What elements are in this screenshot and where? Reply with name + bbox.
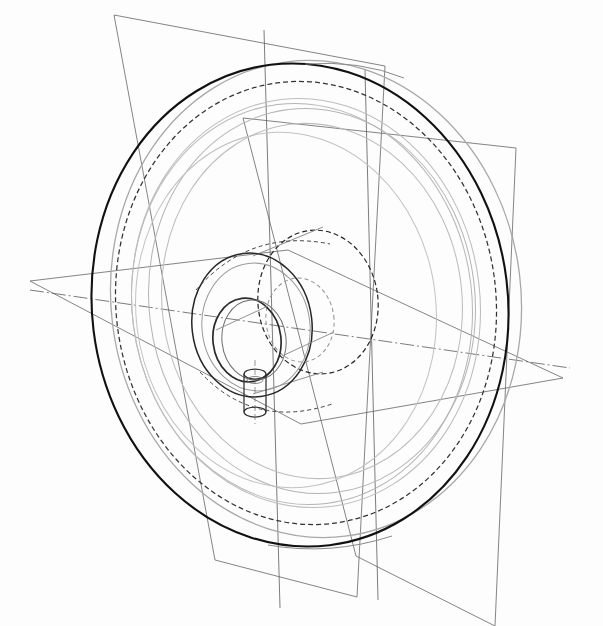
cad-viewport: Pulley Wheel Wireframe isometric V-belt … xyxy=(0,0,603,626)
cad-wireframe-drawing xyxy=(0,0,603,626)
